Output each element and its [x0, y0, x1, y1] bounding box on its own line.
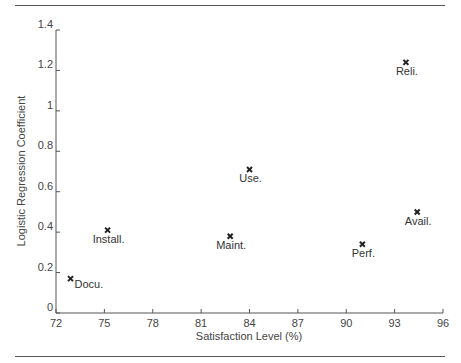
y-axis-title: Logistic Regression Coefficient: [15, 96, 27, 247]
point-label: Use.: [239, 172, 262, 184]
x-tick-label: 93: [389, 317, 401, 329]
x-tick-label: 75: [98, 317, 110, 329]
point-label: Perf.: [352, 247, 375, 259]
x-marker-icon: [403, 60, 408, 65]
y-tick-label: 1.2: [38, 58, 53, 70]
data-points: Docu.Install.Maint.Use.Perf.Avail.Reli.: [68, 60, 432, 290]
data-point: Docu.: [68, 276, 103, 290]
y-tick-label: 0.6: [38, 180, 53, 192]
x-tick-label: 96: [437, 317, 449, 329]
y-tick-label: 1.4: [38, 18, 53, 30]
y-tick-label: 0.2: [38, 261, 53, 273]
x-marker-icon: [247, 167, 252, 172]
x-axis-title: Satisfaction Level (%): [196, 330, 302, 342]
x-tick-label: 87: [292, 317, 304, 329]
point-label: Avail.: [405, 215, 432, 227]
x-tick-label: 72: [50, 317, 62, 329]
y-tick-label: 0.8: [38, 139, 53, 151]
data-point: Avail.: [405, 209, 432, 227]
x-tick-label: 90: [340, 317, 352, 329]
y-axis-ticks: 00.20.40.60.811.21.4: [38, 18, 60, 313]
point-label: Reli.: [396, 65, 418, 77]
y-tick-label: 0: [47, 301, 53, 313]
y-tick-label: 1: [47, 99, 53, 111]
point-label: Install.: [93, 233, 125, 245]
y-tick-label: 0.4: [38, 220, 53, 232]
x-tick-label: 78: [147, 317, 159, 329]
x-marker-icon: [415, 209, 420, 214]
data-point: Perf.: [352, 242, 375, 260]
point-label: Docu.: [75, 278, 104, 290]
x-marker-icon: [228, 234, 233, 239]
point-label: Maint.: [216, 239, 246, 251]
data-point: Install.: [93, 228, 125, 246]
data-point: Maint.: [216, 234, 246, 252]
scatter-chart: 727578818487909396 00.20.40.60.811.21.4 …: [0, 0, 461, 363]
x-tick-label: 81: [195, 317, 207, 329]
x-marker-icon: [105, 228, 110, 233]
x-axis-ticks: 727578818487909396: [50, 309, 449, 329]
x-marker-icon: [360, 242, 365, 247]
x-tick-label: 84: [243, 317, 255, 329]
data-point: Use.: [239, 167, 262, 185]
x-marker-icon: [68, 276, 73, 281]
data-point: Reli.: [396, 60, 418, 78]
